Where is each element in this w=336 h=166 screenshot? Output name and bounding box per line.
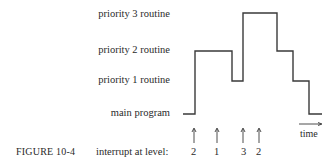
interrupt-arrow-icon — [215, 128, 219, 143]
interrupt-level-value: 2 — [256, 147, 261, 158]
interrupt-arrow-icon — [241, 128, 245, 143]
figure-caption: FIGURE 10-4 — [16, 147, 75, 157]
interrupt-level-value: 3 — [241, 147, 246, 158]
interrupt-arrow-icon — [192, 128, 196, 143]
interrupt-arrow-icon — [257, 128, 261, 143]
execution-step-line — [183, 13, 322, 114]
time-axis-label: time — [300, 129, 318, 139]
interrupt-level-label: interrupt at level: — [96, 147, 168, 158]
interrupt-level-value: 1 — [214, 147, 219, 158]
time-arrow-icon — [299, 123, 322, 126]
execution-trace-plot — [0, 0, 336, 166]
interrupt-level-value: 2 — [191, 147, 196, 158]
